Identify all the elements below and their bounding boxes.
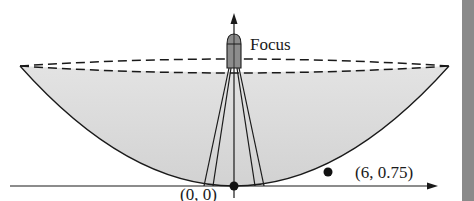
parabolic-dish-diagram: Focus (0, 0) (6, 0.75)	[0, 0, 474, 201]
x-axis-arrowhead-icon	[427, 183, 438, 190]
vertex-label: (0, 0)	[180, 185, 217, 201]
focus-label: Focus	[250, 35, 291, 54]
vertex-point	[230, 182, 239, 191]
page-edge-bar	[462, 0, 474, 201]
curve-point-label: (6, 0.75)	[355, 163, 413, 182]
focus-receiver	[227, 34, 241, 68]
curve-point	[324, 168, 333, 177]
y-axis-arrowhead-icon	[231, 13, 238, 24]
